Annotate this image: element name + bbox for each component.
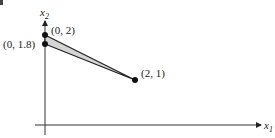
point-label-0-2: (0, 2) <box>51 24 75 37</box>
corner-fragment <box>0 0 3 5</box>
point-label-2-1: (2, 1) <box>141 67 165 80</box>
point-2-1 <box>132 77 138 83</box>
x1-axis-label: x1 <box>263 119 273 134</box>
feasible-region-diagram: x1 x2 (0, 2) (0, 1.8) (2, 1) <box>0 0 275 138</box>
point-0-1.8 <box>42 41 48 47</box>
point-0-2 <box>42 32 48 38</box>
shaded-triangle-region <box>45 35 135 80</box>
x2-axis-label: x2 <box>39 6 49 21</box>
point-label-0-1.8: (0, 1.8) <box>3 38 35 51</box>
